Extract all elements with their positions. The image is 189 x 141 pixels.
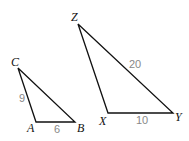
side-label-zy: 20: [129, 58, 141, 70]
vertex-label-y: Y: [175, 110, 183, 124]
vertex-label-x: X: [98, 114, 107, 128]
vertex-label-b: B: [77, 121, 85, 135]
vertex-label-c: C: [11, 55, 20, 69]
side-label-ab: 6: [54, 123, 60, 135]
side-label-ca: 9: [19, 92, 25, 104]
similar-triangles-diagram: C A B 9 6 Z X Y 20 10: [0, 0, 189, 141]
diagram-canvas: C A B 9 6 Z X Y 20 10: [0, 0, 189, 141]
triangle-abc: [18, 68, 75, 122]
vertex-label-z: Z: [71, 10, 78, 24]
vertex-label-a: A: [26, 121, 35, 135]
side-label-xy: 10: [136, 114, 148, 126]
triangle-xyz: [78, 24, 173, 113]
